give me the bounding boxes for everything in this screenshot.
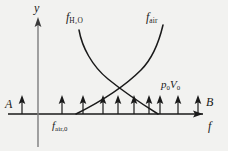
curve-label-f-air: fair <box>146 11 158 23</box>
p-symbol: p <box>161 78 167 90</box>
curve-label-f-h2o: fH₂O <box>66 11 83 23</box>
vertical-axis <box>35 17 42 147</box>
f-air-0-sub: air,0 <box>55 125 68 132</box>
curve-label-f-h2o-sub: H₂O <box>69 16 83 25</box>
y-axis-label: y <box>34 2 39 14</box>
annotation-p0v0: p0V0 <box>161 79 180 90</box>
v-subscript: 0 <box>177 84 181 91</box>
horizontal-axis <box>8 110 203 117</box>
axis-arrow-ticks <box>19 95 202 114</box>
arrow-tick <box>195 95 202 114</box>
axis-label-b: B <box>206 96 213 108</box>
annotation-f-air-0: fair,0 <box>52 120 68 131</box>
arrow-tick <box>19 95 26 114</box>
axis-label-a: A <box>5 98 12 110</box>
p-subscript: 0 <box>167 84 171 91</box>
axis-label-f: f <box>208 120 211 132</box>
physics-figure <box>0 0 228 151</box>
curve-label-f-air-sub: air <box>149 16 157 25</box>
arrow-tick <box>115 95 122 114</box>
arrow-tick <box>175 95 182 114</box>
v-symbol: V <box>170 78 177 90</box>
arrow-tick <box>146 95 153 114</box>
arrow-tick <box>59 95 66 114</box>
arrow-tick <box>157 95 164 114</box>
